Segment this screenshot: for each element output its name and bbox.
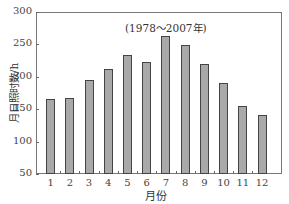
- x-tick-label: 10: [214, 177, 234, 188]
- y-tick: [36, 174, 39, 175]
- bar-month-5: [123, 55, 132, 174]
- bar-month-4: [104, 69, 113, 174]
- y-tick-label: 250: [4, 37, 32, 48]
- y-tick: [36, 44, 39, 45]
- x-tick-label: 11: [233, 177, 253, 188]
- y-tick-label: 300: [4, 5, 32, 16]
- y-tick-label: 100: [4, 135, 32, 146]
- x-tick: [137, 171, 138, 174]
- bar-month-12: [258, 115, 267, 174]
- x-tick: [60, 171, 61, 174]
- x-axis-label: 月份: [145, 187, 167, 203]
- x-tick: [99, 171, 100, 174]
- x-tick: [252, 171, 253, 174]
- x-tick-label: 9: [194, 177, 214, 188]
- x-tick: [195, 171, 196, 174]
- bar-month-7: [161, 36, 170, 174]
- bar-chart: 50100150200250300 123456789101112 (1978～…: [0, 0, 289, 204]
- bar-month-11: [238, 106, 247, 174]
- x-tick: [214, 171, 215, 174]
- y-tick: [36, 109, 39, 110]
- x-tick-label: 5: [117, 177, 137, 188]
- bar-month-9: [200, 64, 209, 174]
- x-tick-label: 2: [60, 177, 80, 188]
- x-tick-label: 12: [252, 177, 272, 188]
- bar-month-2: [65, 98, 74, 174]
- bar-month-3: [85, 80, 94, 174]
- y-axis-label: 月日照时数/h: [6, 63, 21, 123]
- y-tick-label: 50: [4, 167, 32, 178]
- x-tick: [233, 171, 234, 174]
- bar-month-6: [142, 62, 151, 174]
- bar-month-1: [46, 99, 55, 174]
- y-tick: [36, 12, 39, 13]
- x-tick-label: 3: [79, 177, 99, 188]
- y-tick: [36, 77, 39, 78]
- x-tick: [79, 171, 80, 174]
- chart-annotation: (1978～2007年): [125, 20, 207, 35]
- y-tick: [36, 142, 39, 143]
- x-tick-label: 1: [41, 177, 61, 188]
- bar-month-8: [181, 45, 190, 174]
- x-tick: [176, 171, 177, 174]
- x-tick-label: 4: [98, 177, 118, 188]
- x-tick-label: 8: [175, 177, 195, 188]
- bar-month-10: [219, 83, 228, 174]
- x-tick: [118, 171, 119, 174]
- x-tick: [156, 171, 157, 174]
